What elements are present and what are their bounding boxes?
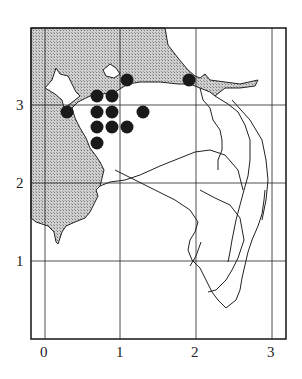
y-tick-2: 2 bbox=[16, 176, 24, 191]
y-tick-1: 1 bbox=[16, 254, 24, 269]
river-1 bbox=[200, 88, 222, 170]
river-3 bbox=[200, 190, 244, 292]
river-2 bbox=[215, 96, 250, 262]
y-tick-3: 3 bbox=[16, 98, 24, 113]
x-tick-2: 2 bbox=[191, 345, 199, 360]
shaded-landmass bbox=[31, 28, 258, 244]
river-5 bbox=[190, 242, 201, 266]
coast-south bbox=[100, 150, 243, 190]
x-tick-0: 0 bbox=[40, 345, 48, 360]
x-tick-3: 3 bbox=[267, 345, 275, 360]
x-tick-1: 1 bbox=[116, 345, 124, 360]
river-4 bbox=[115, 170, 265, 308]
distribution-map bbox=[0, 0, 302, 379]
